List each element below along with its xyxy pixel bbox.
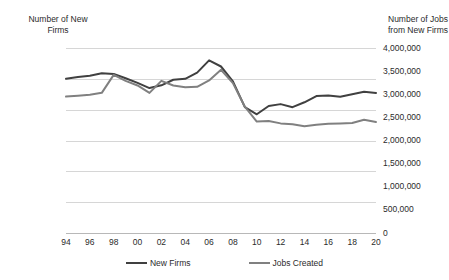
x-axis-tick: 04	[176, 238, 194, 247]
right-axis-tick: 2,000,000	[383, 136, 447, 145]
chart-legend: New FirmsJobs Created	[0, 258, 449, 268]
legend-label: New Firms	[150, 258, 191, 268]
plot-area	[66, 48, 376, 233]
legend-item[interactable]: Jobs Created	[249, 258, 324, 268]
x-axis-tick: 02	[152, 238, 170, 247]
legend-line-icon	[126, 262, 147, 264]
x-axis-tick: 06	[200, 238, 218, 247]
right-axis-tick: 500,000	[383, 205, 447, 214]
x-axis-tick: 14	[295, 238, 313, 247]
right-axis-tick: 1,500,000	[383, 159, 447, 168]
series-line-jobs-created	[66, 70, 376, 126]
dual-axis-line-chart: Number of New Firms Number of Jobs from …	[0, 0, 449, 280]
x-axis-tick: 20	[367, 238, 385, 247]
right-axis-title: Number of Jobs from New Firms	[388, 14, 449, 35]
legend-line-icon	[249, 262, 270, 264]
left-axis-title: Number of New Firms	[10, 14, 106, 35]
x-axis-baseline	[66, 233, 376, 234]
x-axis-tick: 16	[319, 238, 337, 247]
x-axis-tick: 10	[248, 238, 266, 247]
right-axis-tick: 0	[383, 229, 447, 238]
series-line-new-firms	[66, 60, 376, 114]
right-axis-tick: 1,000,000	[383, 182, 447, 191]
right-axis-tick: 3,000,000	[383, 90, 447, 99]
right-axis-tick: 4,000,000	[383, 44, 447, 53]
legend-label: Jobs Created	[273, 258, 324, 268]
right-axis-tick: 3,500,000	[383, 67, 447, 76]
x-axis-tick: 96	[81, 238, 99, 247]
x-axis-tick: 00	[129, 238, 147, 247]
x-axis-tick: 12	[272, 238, 290, 247]
right-axis-tick: 2,500,000	[383, 113, 447, 122]
x-axis-tick: 98	[105, 238, 123, 247]
x-axis-tick: 18	[343, 238, 361, 247]
x-axis-tick: 94	[57, 238, 75, 247]
legend-item[interactable]: New Firms	[126, 258, 191, 268]
x-axis-tick: 08	[224, 238, 242, 247]
series-lines	[66, 48, 376, 233]
